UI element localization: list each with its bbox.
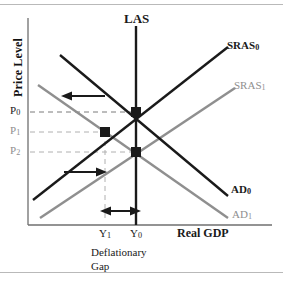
equilibrium-point-e0 — [131, 107, 141, 117]
sras0-label: SRAS0 — [227, 40, 259, 53]
las-label: LAS — [124, 12, 149, 25]
gap-caption-line1: Deflationary — [91, 247, 147, 258]
price-tick-p2-sub: 2 — [16, 148, 20, 157]
ad1-label-text: AD — [232, 208, 248, 220]
output-tick-y0-sub: 0 — [138, 231, 142, 240]
ad0-label-sub: 0 — [247, 187, 251, 196]
sras1-label-sub: 1 — [262, 83, 266, 92]
sras1-label: SRAS1 — [234, 80, 266, 93]
ad0-label: AD0 — [231, 184, 251, 197]
ad1-label: AD1 — [232, 209, 252, 222]
sras0-label-sub: 0 — [255, 43, 259, 52]
price-tick-p1-sub: 1 — [16, 128, 20, 137]
output-tick-y1-text: Y — [99, 227, 107, 239]
gap-caption-line2: Gap — [91, 261, 109, 272]
equilibrium-point-e2 — [131, 147, 141, 157]
price-tick-p1: P1 — [10, 125, 20, 138]
output-tick-y0-text: Y — [130, 227, 138, 239]
sras0-label-text: SRAS — [227, 39, 255, 51]
ad1-label-sub: 1 — [248, 212, 252, 221]
x-axis-title: Real GDP — [177, 227, 229, 239]
price-tick-p0: P0 — [10, 105, 20, 118]
price-tick-p0-sub: 0 — [16, 108, 20, 117]
sras1-label-text: SRAS — [234, 79, 262, 91]
ad0-label-text: AD — [231, 183, 247, 195]
ad0-curve — [60, 55, 228, 196]
output-tick-y1-sub: 1 — [107, 231, 111, 240]
as-ad-diagram: Price Level LAS SRAS0 SRAS1 AD0 AD1 P0 P… — [0, 0, 283, 281]
equilibrium-point-e1 — [100, 127, 110, 137]
sras0-curve — [33, 47, 228, 200]
price-tick-p2: P2 — [10, 145, 20, 158]
rightward-arrow — [64, 168, 107, 177]
y-axis-title: Price Level — [11, 34, 26, 102]
output-tick-y1: Y1 — [99, 228, 111, 241]
output-tick-y0: Y0 — [130, 228, 142, 241]
leftward-arrow — [61, 92, 105, 101]
